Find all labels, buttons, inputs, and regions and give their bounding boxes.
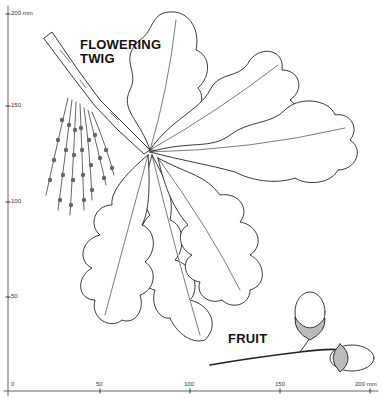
x-tick-200: 200 mm	[355, 381, 377, 387]
y-tick-150: 150	[11, 102, 21, 108]
x-tick-50: 50	[96, 381, 103, 387]
twig-text: TWIG	[80, 52, 161, 66]
x-tick-100: 100	[184, 381, 194, 387]
oak-illustration	[0, 0, 381, 399]
flowering-text: FLOWERING	[80, 38, 161, 52]
y-tick-50: 50	[11, 293, 18, 299]
flowering-twig-label: FLOWERING TWIG	[80, 38, 161, 66]
y-tick-200: 200 mm	[11, 10, 33, 16]
fruit-label: FRUIT	[228, 332, 267, 346]
x-tick-0: 0	[11, 381, 14, 387]
y-tick-100: 100	[11, 198, 21, 204]
x-tick-150: 150	[275, 381, 285, 387]
